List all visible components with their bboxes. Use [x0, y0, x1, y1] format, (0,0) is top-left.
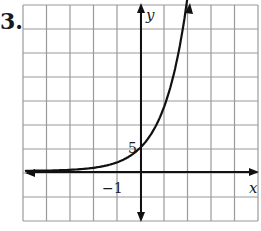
x-tick-label-neg1: −1	[102, 180, 123, 196]
axes	[30, 3, 259, 222]
x-axis-label: x	[249, 179, 258, 197]
y-axis-label: y	[145, 6, 155, 24]
exponential-curve	[26, 0, 189, 171]
exponential-graph: y x −1 5	[0, 0, 261, 231]
y-tick-label-5: 5	[128, 140, 137, 156]
